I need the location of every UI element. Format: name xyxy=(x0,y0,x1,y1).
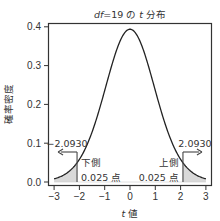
x-tick-label: 3 xyxy=(203,191,209,202)
chart-title: df=19 の t 分布 xyxy=(94,9,166,20)
x-axis-label: t 値 xyxy=(122,208,139,219)
y-axis-label: 確率密度 xyxy=(3,84,14,124)
x-tick-label: −1 xyxy=(99,191,111,202)
x-tick-label: 0 xyxy=(127,191,133,202)
lower-tail-label-line1: 下側 xyxy=(81,157,101,168)
lower-tail-shade xyxy=(54,163,77,182)
x-tick-label: −2 xyxy=(74,191,86,202)
y-tick-label: 0.3 xyxy=(27,60,41,71)
title-end: 分布 xyxy=(143,9,166,20)
upper-critical-value-label: 2.0930 xyxy=(178,138,211,149)
title-middle: =19 の xyxy=(103,9,139,20)
y-tick-label: 0.1 xyxy=(27,138,41,149)
y-tick-label: 0.2 xyxy=(27,99,41,110)
lower-tail-label-line2: 0.025 点 xyxy=(81,172,121,183)
lower-critical-value-label: −2.0930 xyxy=(46,138,87,149)
plot-frame xyxy=(49,24,212,186)
t-distribution-chart: df=19 の t 分布 −2.0930 2.0930 下側 0.025 点 上… xyxy=(0,0,220,221)
x-tick-label: −3 xyxy=(48,191,60,202)
upper-tail-label-line1: 上側 xyxy=(159,157,179,168)
x-tick-label: 2 xyxy=(178,191,184,202)
x-axis-label-rest: 値 xyxy=(125,208,138,219)
upper-tail-shade xyxy=(183,163,206,182)
y-tick-label: 0.0 xyxy=(27,177,41,188)
upper-tail-label-line2: 0.025 点 xyxy=(139,172,179,183)
y-tick-label: 0.4 xyxy=(27,21,41,32)
x-tick-label: 1 xyxy=(153,191,159,202)
